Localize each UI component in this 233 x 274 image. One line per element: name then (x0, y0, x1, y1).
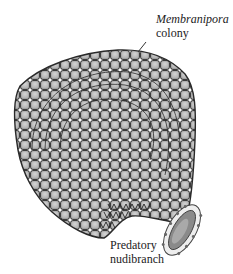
predator-label-line2: nudibranch (110, 252, 164, 266)
predator-label-line1: Predatory (110, 238, 157, 252)
colony-name-label: Membranipora (156, 12, 229, 26)
diagram-canvas (0, 0, 233, 274)
colony-word-label: colony (156, 26, 189, 40)
